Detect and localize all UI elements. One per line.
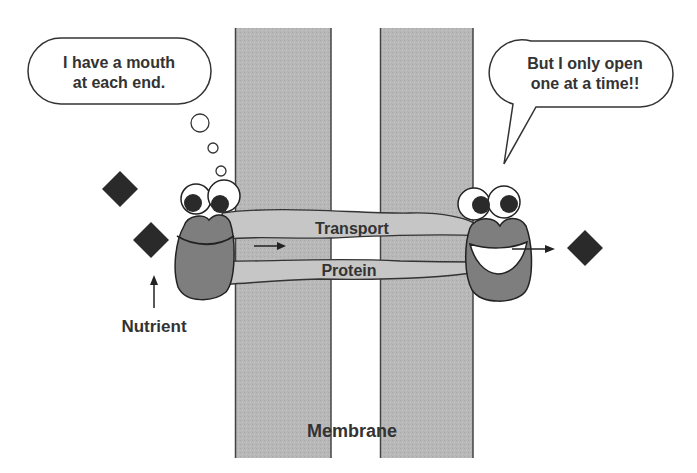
nutrient-diamond-icon bbox=[567, 230, 603, 266]
thought-circle-icon bbox=[216, 166, 226, 176]
left-bubble-line2: at each end. bbox=[73, 74, 165, 91]
membrane-label: Membrane bbox=[307, 421, 397, 441]
right-bubble-line2: one at a time!! bbox=[531, 75, 639, 92]
thought-circle-icon bbox=[191, 114, 209, 132]
right-bubble-line1: But I only open bbox=[527, 55, 643, 72]
transport-protein-diagram: I have a mouth at each end. But I only o… bbox=[0, 0, 697, 473]
arrow-icon bbox=[150, 275, 158, 308]
protein-label: Protein bbox=[321, 262, 376, 279]
left-bubble-line1: I have a mouth bbox=[63, 54, 175, 71]
nutrient-label: Nutrient bbox=[121, 317, 187, 336]
membrane-right-layer bbox=[380, 28, 473, 458]
left-thought-bubble: I have a mouth at each end. bbox=[28, 38, 226, 176]
nutrient-diamond-icon bbox=[102, 171, 138, 207]
right-mouth-character bbox=[458, 186, 532, 301]
transport-label: Transport bbox=[315, 220, 389, 237]
left-mouth-character bbox=[175, 180, 240, 300]
nutrient-diamond-icon bbox=[133, 222, 169, 258]
right-speech-bubble: But I only open one at a time!! bbox=[489, 40, 673, 164]
membrane-left-layer bbox=[235, 28, 331, 458]
thought-circle-icon bbox=[208, 143, 218, 153]
